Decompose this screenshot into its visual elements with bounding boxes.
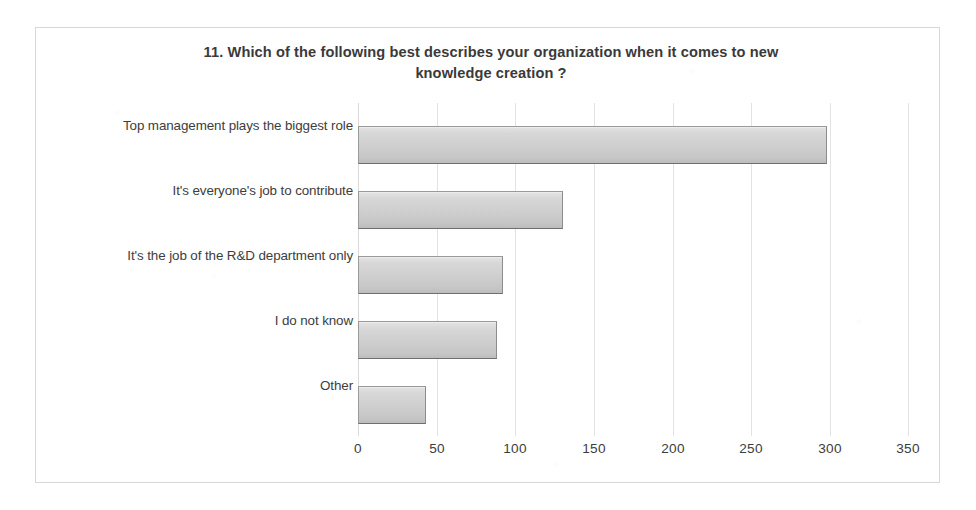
x-tick-label-0: 0 xyxy=(354,441,362,456)
chart-title: 11. Which of the following best describe… xyxy=(156,42,826,84)
bar-other xyxy=(358,386,426,424)
bar-everyones-job xyxy=(358,191,563,229)
x-tick-label-150: 150 xyxy=(582,441,605,456)
category-label-everyones-job: It's everyone's job to contribute xyxy=(23,183,353,198)
category-label-top-management: Top management plays the biggest role xyxy=(23,118,353,133)
gridline-350 xyxy=(908,103,909,436)
chart-title-line-2: knowledge creation ? xyxy=(156,63,826,84)
chart-frame: 11. Which of the following best describe… xyxy=(35,27,940,483)
gridline-300 xyxy=(830,103,831,436)
chart-title-line-1: 11. Which of the following best describe… xyxy=(156,42,826,63)
x-tick-label-350: 350 xyxy=(896,441,919,456)
bar-top-management xyxy=(358,126,827,164)
plot-area xyxy=(358,103,909,436)
x-tick-label-100: 100 xyxy=(503,441,526,456)
x-tick-label-50: 50 xyxy=(429,441,445,456)
category-label-other: Other xyxy=(23,378,353,393)
x-axis-tick-labels: 0 50 100 150 200 250 300 350 xyxy=(358,441,909,467)
x-tick-label-200: 200 xyxy=(661,441,684,456)
y-axis-category-labels: Top management plays the biggest role It… xyxy=(41,103,353,436)
x-tick-label-250: 250 xyxy=(739,441,762,456)
bar-rd-department xyxy=(358,256,503,294)
category-label-do-not-know: I do not know xyxy=(23,313,353,328)
x-tick-label-300: 300 xyxy=(818,441,841,456)
bar-do-not-know xyxy=(358,321,497,359)
category-label-rd-department: It's the job of the R&D department only xyxy=(23,248,353,263)
